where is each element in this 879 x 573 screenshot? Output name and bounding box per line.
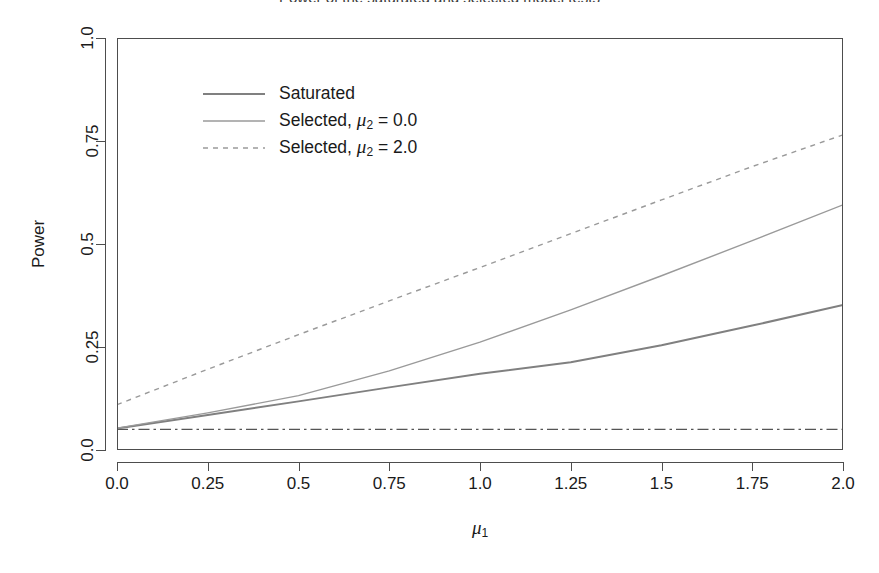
x-axis-title-symbol: μ bbox=[472, 517, 482, 538]
mu-symbol: μ bbox=[357, 136, 367, 157]
x-tick-mark bbox=[662, 462, 663, 471]
x-axis-title-subscript: 1 bbox=[481, 526, 488, 540]
x-tick-mark bbox=[571, 462, 572, 471]
legend-label: Saturated bbox=[279, 83, 355, 104]
mu-symbol: μ bbox=[357, 109, 367, 130]
x-tick-mark bbox=[299, 462, 300, 471]
x-tick-label: 1.5 bbox=[650, 474, 674, 494]
y-axis-title: Power bbox=[29, 220, 49, 268]
x-tick-label: 1.25 bbox=[554, 474, 587, 494]
legend-item: Saturated bbox=[203, 80, 417, 107]
x-tick-label: 0.0 bbox=[105, 474, 129, 494]
y-tick-label: 1.0 bbox=[78, 26, 98, 50]
x-tick-label: 0.5 bbox=[287, 474, 311, 494]
x-tick-label: 0.75 bbox=[373, 474, 406, 494]
x-tick-mark bbox=[389, 462, 390, 471]
legend-label: Selected, μ2 = 2.0 bbox=[279, 136, 417, 159]
chart-title: Power of the saturated and selected mode… bbox=[0, 0, 879, 2]
x-tick-label: 1.75 bbox=[736, 474, 769, 494]
mu-subscript: 2 bbox=[366, 145, 373, 159]
series-line-selected-0-0 bbox=[117, 205, 843, 428]
x-tick-label: 2.0 bbox=[831, 474, 855, 494]
x-tick-mark bbox=[843, 462, 844, 471]
legend-item: Selected, μ2 = 2.0 bbox=[203, 134, 417, 161]
legend-label: Selected, μ2 = 0.0 bbox=[279, 109, 417, 132]
legend-line-sample bbox=[203, 114, 265, 128]
y-tick-label: 0.75 bbox=[83, 124, 103, 157]
x-tick-mark bbox=[117, 462, 118, 471]
x-tick-label: 0.25 bbox=[191, 474, 224, 494]
mu-subscript: 2 bbox=[366, 118, 373, 132]
y-tick-label: 0.0 bbox=[78, 438, 98, 462]
legend-item: Selected, μ2 = 0.0 bbox=[203, 107, 417, 134]
x-tick-mark bbox=[208, 462, 209, 471]
y-axis-line bbox=[105, 38, 106, 451]
x-tick-mark bbox=[480, 462, 481, 471]
x-tick-label: 1.0 bbox=[468, 474, 492, 494]
y-tick-label: 0.5 bbox=[78, 232, 98, 256]
legend-line-sample bbox=[203, 141, 265, 155]
x-axis-title: μ1 bbox=[472, 517, 488, 540]
legend: SaturatedSelected, μ2 = 0.0Selected, μ2 … bbox=[203, 80, 417, 161]
x-tick-mark bbox=[752, 462, 753, 471]
power-curve-figure: Power of the saturated and selected mode… bbox=[0, 0, 879, 573]
legend-line-sample bbox=[203, 87, 265, 101]
series-line-selected-2-0 bbox=[117, 135, 843, 405]
y-tick-label: 0.25 bbox=[83, 330, 103, 363]
